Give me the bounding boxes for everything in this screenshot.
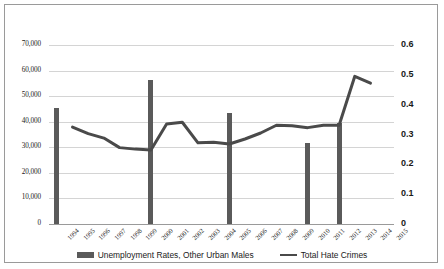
x-tick-label: 1997 <box>113 227 127 241</box>
legend-entry-total-hate-crimes: Total Hate Crimes <box>280 250 368 260</box>
x-tick-label: 2003 <box>207 227 221 241</box>
legend-label-total-hate-crimes: Total Hate Crimes <box>301 250 368 260</box>
x-tick-label: 2015 <box>395 227 409 241</box>
line-series-total-hate-crimes <box>49 45 394 224</box>
y-right-tick-label: 0.2 <box>401 158 437 168</box>
x-tick-label: 2004 <box>223 227 237 241</box>
x-tick-label: 1995 <box>81 227 95 241</box>
legend-label-unemployment-rates: Unemployment Rates, Other Urban Males <box>98 250 254 260</box>
x-tick-label: 2002 <box>191 227 205 241</box>
legend-bar-swatch-icon <box>77 252 94 258</box>
x-tick-label: 2000 <box>160 227 174 241</box>
y-right-tick-label: 0.3 <box>401 129 437 139</box>
x-tick-label: 2001 <box>175 227 189 241</box>
x-tick-label: 2008 <box>285 227 299 241</box>
y-left-tick-label: 40,000 <box>0 117 41 125</box>
plot-area <box>49 45 394 224</box>
x-tick-label: 2014 <box>379 227 393 241</box>
y-left-tick-label: 30,000 <box>0 142 41 150</box>
x-tick-label: 2012 <box>348 227 362 241</box>
y-right-tick-label: 0.4 <box>401 99 437 109</box>
x-tick-label: 2005 <box>238 227 252 241</box>
x-tick-label: 2007 <box>270 227 284 241</box>
x-tick-label: 1998 <box>128 227 142 241</box>
x-tick-label: 1994 <box>66 227 80 241</box>
y-left-tick-label: 0 <box>0 219 41 227</box>
y-left-tick-label: 20,000 <box>0 168 41 176</box>
y-right-tick-label: 0 <box>401 218 437 228</box>
legend-line-swatch-icon <box>280 254 297 257</box>
x-tick-label: 2009 <box>301 227 315 241</box>
chart-frame: 010,00020,00030,00040,00050,00060,00070,… <box>4 4 438 263</box>
x-tick-label: 1999 <box>144 227 158 241</box>
y-left-tick-label: 60,000 <box>0 66 41 74</box>
y-left-tick-label: 70,000 <box>0 40 41 48</box>
chart-legend: Unemployment Rates, Other Urban Males To… <box>5 246 439 264</box>
gridline <box>49 224 394 225</box>
x-tick-label: 1996 <box>97 227 111 241</box>
x-tick-label: 2010 <box>317 227 331 241</box>
x-tick-label: 2011 <box>332 227 346 241</box>
y-left-tick-label: 50,000 <box>0 91 41 99</box>
y-right-tick-label: 0.1 <box>401 188 437 198</box>
y-left-tick-label: 10,000 <box>0 193 41 201</box>
y-right-tick-label: 0.5 <box>401 69 437 79</box>
x-tick-label: 2006 <box>254 227 268 241</box>
legend-entry-unemployment-rates: Unemployment Rates, Other Urban Males <box>77 250 254 260</box>
y-right-tick-label: 0.6 <box>401 39 437 49</box>
x-tick-label: 2013 <box>364 227 378 241</box>
hate-crimes-polyline <box>73 76 371 150</box>
